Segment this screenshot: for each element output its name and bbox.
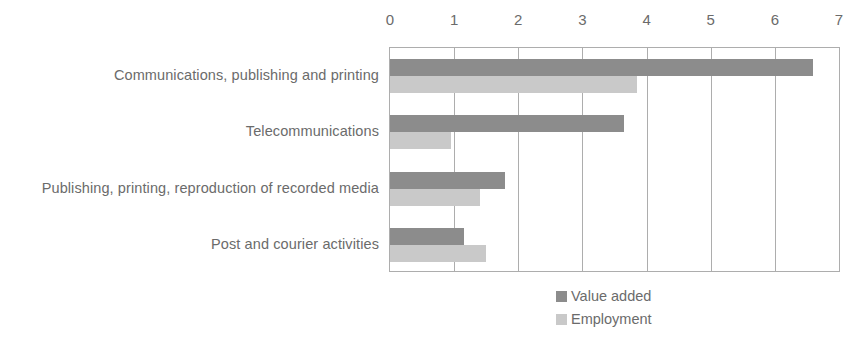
bar-value-added-2 <box>390 172 505 189</box>
x-axis-tick-1: 1 <box>450 12 458 27</box>
plot-area <box>389 47 840 272</box>
bar-value-added-0 <box>390 59 813 76</box>
x-axis-tick-3: 3 <box>578 12 586 27</box>
x-axis-tick-2: 2 <box>514 12 522 27</box>
bar-employment-0 <box>390 76 637 93</box>
category-label-0: Communications, publishing and printing <box>0 68 379 83</box>
category-label-2: Publishing, printing, reproduction of re… <box>0 181 379 196</box>
x-axis-tick-6: 6 <box>771 12 779 27</box>
legend-item-employment[interactable]: Employment <box>556 308 736 331</box>
legend-label: Value added <box>571 289 651 304</box>
bar-value-added-3 <box>390 228 464 245</box>
bar-chart: 01234567 Communications, publishing and … <box>0 0 858 340</box>
bars-layer <box>390 48 839 271</box>
x-axis-tick-5: 5 <box>707 12 715 27</box>
chart-legend: Value addedEmployment <box>556 285 736 331</box>
bar-employment-3 <box>390 245 486 262</box>
legend-item-value-added[interactable]: Value added <box>556 285 736 308</box>
x-axis-tick-labels: 01234567 <box>389 12 840 38</box>
x-axis-tick-7: 7 <box>835 12 843 27</box>
category-axis-labels: Communications, publishing and printingT… <box>0 47 385 272</box>
bar-employment-2 <box>390 189 480 206</box>
legend-swatch-employment <box>556 314 567 325</box>
x-axis-tick-4: 4 <box>642 12 650 27</box>
x-axis-tick-0: 0 <box>386 12 394 27</box>
bar-employment-1 <box>390 132 451 149</box>
bar-value-added-1 <box>390 115 624 132</box>
legend-swatch-value-added <box>556 291 567 302</box>
category-label-1: Telecommunications <box>0 124 379 139</box>
category-label-3: Post and courier activities <box>0 237 379 252</box>
legend-label: Employment <box>571 312 652 327</box>
